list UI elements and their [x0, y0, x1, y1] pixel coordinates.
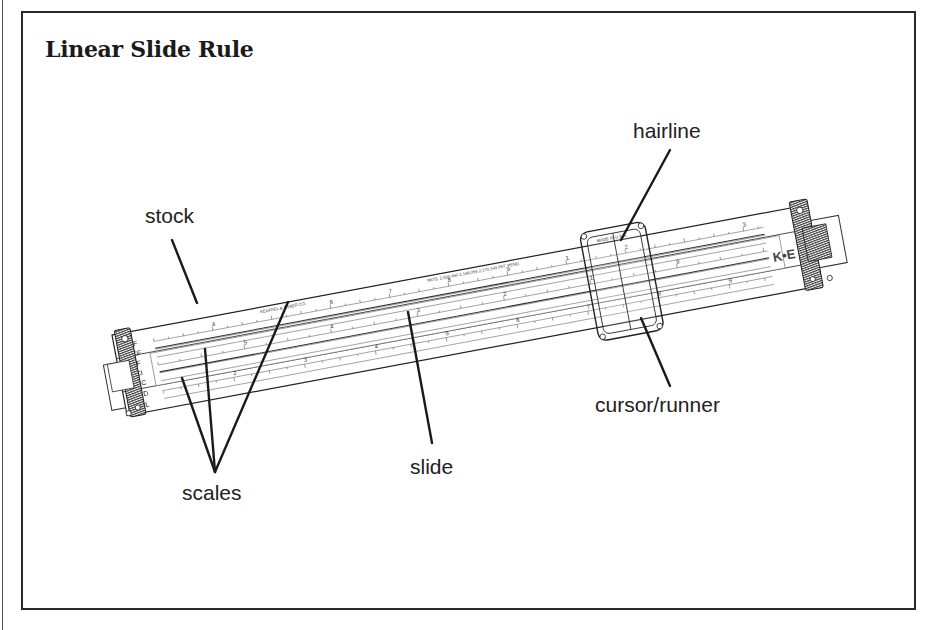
leader-cursor [641, 318, 670, 386]
leader-stock [172, 240, 197, 303]
label-slide: slide [410, 455, 453, 478]
label-scales: scales [182, 481, 242, 504]
label-stock: stock [145, 204, 195, 227]
label-hairline: hairline [633, 119, 701, 142]
label-cursor-runner: cursor/runner [595, 393, 720, 416]
slide-rule-diagram: 4070-3 DF CF CIF CI [0, 0, 929, 630]
